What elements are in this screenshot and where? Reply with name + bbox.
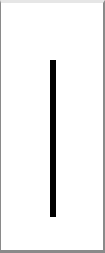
vertical-bar-glyph (50, 60, 56, 217)
glyph-frame (0, 0, 105, 253)
